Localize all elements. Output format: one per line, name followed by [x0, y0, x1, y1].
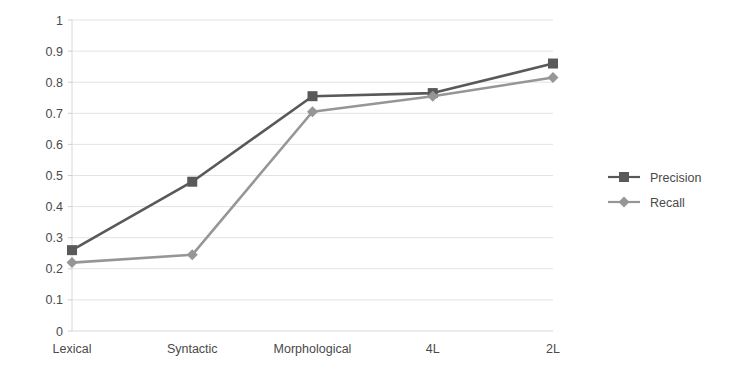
- legend-label: Recall: [650, 196, 685, 210]
- legend-swatch-marker: [619, 197, 630, 208]
- y-axis-tick-label: 0.6: [46, 138, 63, 152]
- legend-swatch-marker: [619, 172, 629, 182]
- data-series-group: [67, 59, 559, 269]
- x-axis-category-label: 4L: [426, 342, 440, 356]
- x-axis-category-label: Lexical: [53, 342, 92, 356]
- chart-legend: PrecisionRecall: [608, 171, 701, 210]
- y-axis-tick-label: 0.2: [46, 262, 63, 276]
- legend-label: Precision: [650, 171, 701, 185]
- data-point-marker: [67, 257, 78, 268]
- series-line: [72, 78, 553, 263]
- y-axis-tick-label: 0.4: [46, 200, 63, 214]
- legend-item-precision[interactable]: Precision: [608, 171, 701, 185]
- x-axis-category-label: 2L: [546, 342, 560, 356]
- chart-container: 10.90.80.70.60.50.40.30.20.10 LexicalSyn…: [0, 0, 735, 385]
- data-point-marker: [187, 177, 197, 187]
- y-axis-tick-marks: [68, 20, 72, 331]
- y-axis-tick-label: 0.8: [46, 76, 63, 90]
- series-recall: [67, 72, 559, 268]
- y-axis-tick-label: 0.1: [46, 293, 63, 307]
- x-axis-category-label: Syntactic: [167, 342, 218, 356]
- y-axis-tick-label: 0.5: [46, 169, 63, 183]
- x-axis-category-labels: LexicalSyntacticMorphological4L2L: [53, 342, 560, 356]
- y-axis-tick-label: 0.3: [46, 231, 63, 245]
- y-axis-tick-label: 0: [56, 325, 63, 339]
- legend-item-recall[interactable]: Recall: [608, 196, 685, 210]
- line-chart: 10.90.80.70.60.50.40.30.20.10 LexicalSyn…: [0, 0, 735, 385]
- y-axis-tick-label: 1: [56, 14, 63, 28]
- y-axis-tick-label: 0.9: [46, 45, 63, 59]
- x-axis-category-label: Morphological: [274, 342, 352, 356]
- data-point-marker: [308, 91, 318, 101]
- gridlines: [72, 20, 553, 331]
- y-axis-tick-label: 0.7: [46, 107, 63, 121]
- data-point-marker: [548, 59, 558, 69]
- data-point-marker: [548, 72, 559, 83]
- data-point-marker: [67, 245, 77, 255]
- y-axis-tick-labels: 10.90.80.70.60.50.40.30.20.10: [46, 14, 63, 339]
